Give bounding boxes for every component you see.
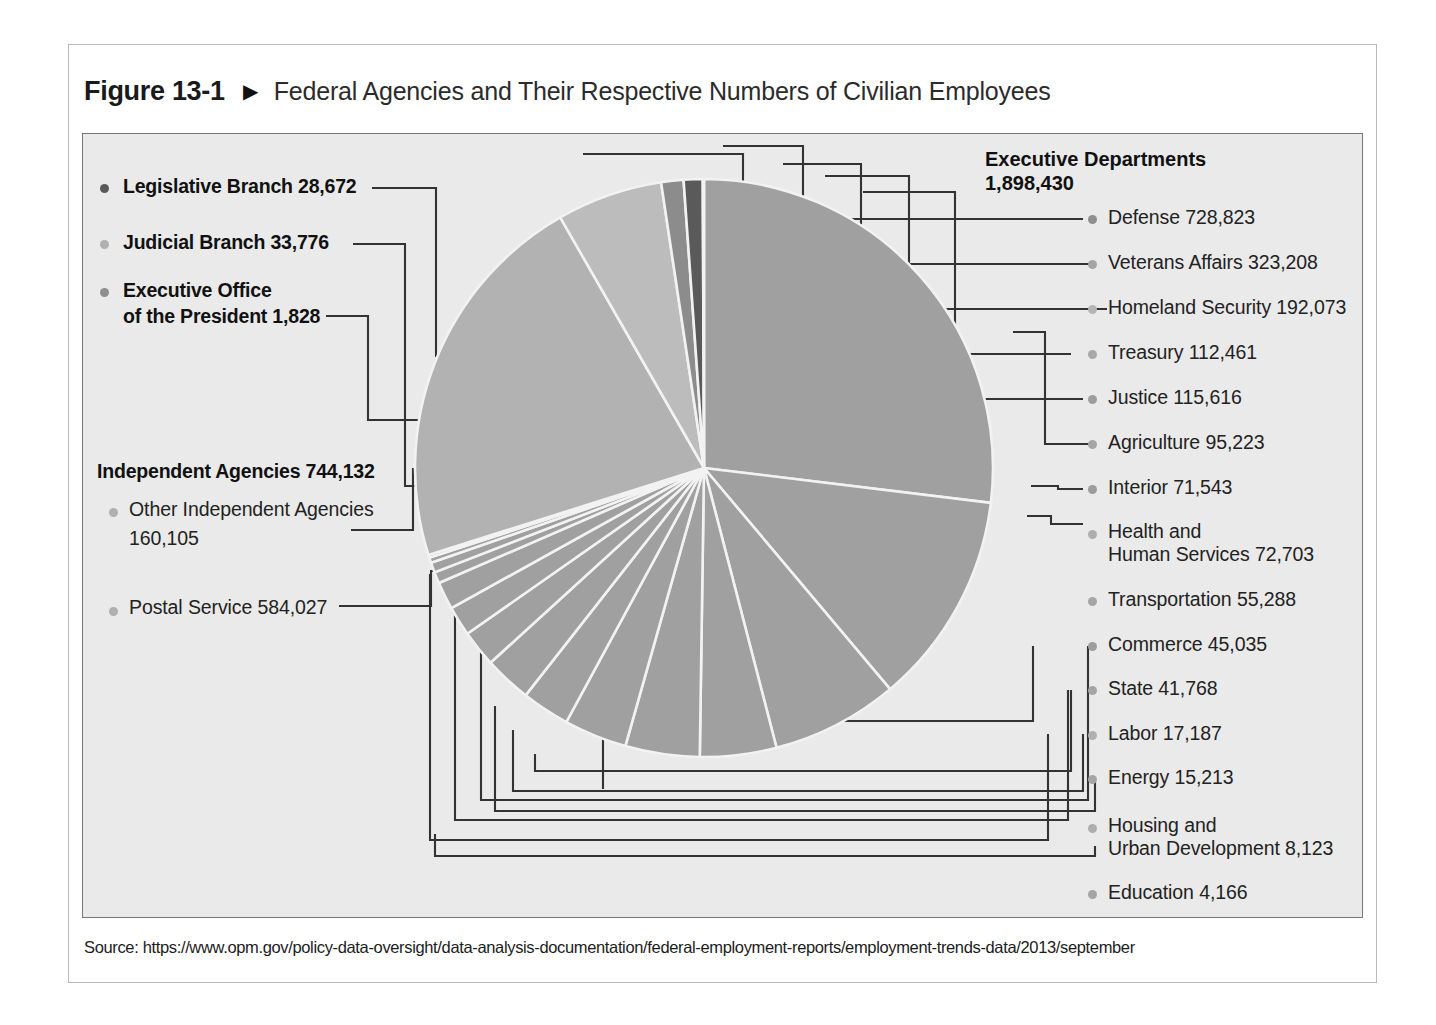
label-agriculture: Agriculture 95,223: [1108, 431, 1264, 454]
figure-title-text: Federal Agencies and Their Respective Nu…: [274, 77, 1051, 106]
label-treasury: Treasury 112,461: [1108, 341, 1257, 364]
label-other-independent-line2: 160,105: [129, 527, 199, 550]
bullet-veterans: [1088, 260, 1097, 269]
bullet-hud: [1088, 824, 1097, 833]
bullet-commerce: [1088, 642, 1097, 651]
label-legislative: Legislative Branch 28,672: [123, 175, 356, 198]
label-executive-office-line1: Executive Office: [123, 279, 272, 302]
bullet-labor: [1088, 731, 1097, 740]
label-postal: Postal Service 584,027: [129, 596, 327, 619]
label-veterans: Veterans Affairs 323,208: [1108, 251, 1318, 274]
bullet-other-independent: [109, 508, 118, 517]
label-transportation: Transportation 55,288: [1108, 588, 1296, 611]
label-defense: Defense 728,823: [1108, 206, 1255, 229]
bullet-treasury: [1088, 350, 1097, 359]
bullet-judicial: [100, 240, 109, 249]
triangle-marker-icon: ▶: [243, 81, 258, 101]
label-hud-line1: Housing and: [1108, 814, 1333, 837]
label-energy: Energy 15,213: [1108, 766, 1234, 789]
bullet-education: [1088, 890, 1097, 899]
label-state: State 41,768: [1108, 677, 1217, 700]
label-executive-office-line2: of the President 1,828: [123, 305, 320, 328]
bullet-executive-office: [100, 288, 109, 297]
label-homeland: Homeland Security 192,073: [1108, 296, 1346, 319]
bullet-state: [1088, 686, 1097, 695]
label-commerce: Commerce 45,035: [1108, 633, 1267, 656]
figure-title-bar: Figure 13-1 ▶ Federal Agencies and Their…: [84, 68, 1354, 114]
bullet-agriculture: [1088, 440, 1097, 449]
chart-panel: Legislative Branch 28,672 Judicial Branc…: [82, 133, 1363, 918]
label-independent-agencies-header: Independent Agencies 744,132: [97, 460, 375, 483]
label-hhs-line1: Health and: [1108, 520, 1314, 543]
label-hhs: Health and Human Services 72,703: [1108, 520, 1314, 566]
pie-slice: [704, 179, 993, 503]
label-hud-line2: Urban Development 8,123: [1108, 837, 1333, 860]
label-executive-departments-header: Executive Departments 1,898,430: [985, 147, 1206, 195]
bullet-legislative: [100, 184, 109, 193]
exec-dept-header-line1: Executive Departments: [985, 147, 1206, 171]
bullet-defense: [1088, 215, 1097, 224]
label-hud: Housing and Urban Development 8,123: [1108, 814, 1333, 860]
bullet-hhs: [1088, 530, 1097, 539]
label-judicial: Judicial Branch 33,776: [123, 231, 329, 254]
label-interior: Interior 71,543: [1108, 476, 1232, 499]
bullet-transportation: [1088, 597, 1097, 606]
label-other-independent-line1: Other Independent Agencies: [129, 498, 374, 521]
label-labor: Labor 17,187: [1108, 722, 1222, 745]
pie-slice-group: [415, 179, 993, 757]
source-note: Source: https://www.opm.gov/policy-data-…: [84, 938, 1344, 957]
bullet-energy: [1088, 775, 1097, 784]
bullet-interior: [1088, 485, 1097, 494]
figure-number: Figure 13-1: [84, 76, 225, 107]
label-hhs-line2: Human Services 72,703: [1108, 543, 1314, 566]
label-justice: Justice 115,616: [1108, 386, 1242, 409]
bullet-homeland: [1088, 305, 1097, 314]
exec-dept-header-line2: 1,898,430: [985, 171, 1206, 195]
pie-slice: [703, 179, 704, 468]
bullet-justice: [1088, 395, 1097, 404]
bullet-postal: [109, 607, 118, 616]
label-education: Education 4,166: [1108, 881, 1247, 904]
